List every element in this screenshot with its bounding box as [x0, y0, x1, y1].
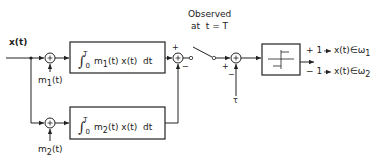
ref-m2-arg: (t) — [52, 144, 63, 154]
bottom-output-line — [165, 64, 178, 123]
output-result-2-text: x(t)∈ω — [334, 66, 365, 76]
bottom-correlator-label: ∫T0m2(t) x(t) dt — [78, 118, 152, 135]
expr-m: m — [94, 56, 103, 66]
output-result-2: x(t)∈ω2 — [334, 67, 370, 79]
input-label: x(t) — [9, 38, 27, 47]
sampler-label-line1: Observed — [188, 10, 231, 19]
sampler-switch — [189, 47, 230, 60]
expr-rest: (t) x(t) dt — [108, 56, 152, 66]
expr-rest: (t) x(t) dt — [108, 122, 152, 132]
top-correlator-label: ∫T0m1(t) x(t) dt — [78, 52, 152, 69]
sampler-label-line2: at t = T — [191, 22, 228, 31]
output-value-2: − 1 — [306, 67, 322, 76]
difference-minus-sign: − — [182, 63, 189, 71]
difference-plus-sign: + — [172, 44, 179, 52]
bottom-sum-node — [45, 118, 69, 141]
ref-m1-main: m — [38, 75, 47, 85]
ref-m2-main: m — [38, 144, 47, 154]
output-result-1-text: x(t)∈ω — [334, 45, 365, 55]
reference-label-m2: m2(t) — [38, 145, 62, 157]
output-value-1: + 1 — [306, 46, 322, 55]
decision-box — [262, 44, 300, 75]
output-class-2: 2 — [365, 70, 370, 79]
expr-m: m — [94, 122, 103, 132]
integral-lower-limit: 0 — [86, 128, 90, 136]
output-result-1: x(t)∈ω1 — [334, 46, 370, 58]
ref-m1-arg: (t) — [52, 75, 63, 85]
threshold-label: τ — [233, 97, 238, 105]
threshold-minus-sign: − — [228, 71, 235, 79]
output-class-1: 1 — [365, 49, 370, 58]
input-line — [6, 56, 44, 123]
threshold-node — [231, 53, 261, 96]
integral-upper-limit: T — [83, 116, 87, 124]
top-sum-node — [45, 53, 69, 72]
integral-lower-limit: 0 — [86, 62, 90, 70]
reference-label-m1: m1(t) — [38, 76, 62, 88]
integral-upper-limit: T — [83, 50, 87, 58]
